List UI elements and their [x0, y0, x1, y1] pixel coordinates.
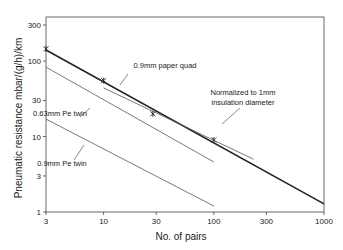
data-marker	[44, 46, 49, 52]
x-axis-ticks: 310301003001000	[44, 212, 334, 226]
annotation-label: Normalized to 1mm	[210, 88, 275, 97]
x-tick-label: 3	[44, 217, 49, 226]
pneumatic-resistance-chart: 310301003001000 131030100300 0.9mm paper…	[0, 0, 343, 250]
plot-frame	[46, 17, 324, 212]
leader-line	[222, 108, 240, 124]
annotation-leaders	[74, 74, 240, 160]
leader-line	[120, 74, 128, 85]
y-tick-label: 30	[32, 96, 41, 105]
x-tick-label: 1000	[315, 217, 333, 226]
annotation-label: insulation diameter	[212, 98, 275, 107]
y-axis-label: Pneumatic resistance mbar/(g/h)/km	[13, 38, 24, 199]
x-tick-label: 10	[99, 217, 108, 226]
y-tick-label: 300	[28, 21, 42, 30]
y-tick-label: 10	[32, 133, 41, 142]
annotation-label: 0.63mm Pe twin	[33, 109, 87, 118]
x-tick-label: 30	[152, 217, 161, 226]
y-tick-label: 3	[37, 172, 42, 181]
y-axis-ticks: 131030100300	[28, 21, 46, 217]
plot-border	[46, 17, 324, 212]
x-axis-label: No. of pairs	[155, 231, 206, 242]
annotation-label: 0.9mm Pe twin	[37, 159, 87, 168]
x-tick-label: 300	[260, 217, 274, 226]
y-tick-label: 100	[28, 57, 42, 66]
leader-line	[74, 145, 84, 160]
y-tick-label: 1	[37, 208, 42, 217]
annotation-label: 0.9mm paper quad	[134, 61, 197, 70]
x-tick-label: 100	[207, 217, 221, 226]
